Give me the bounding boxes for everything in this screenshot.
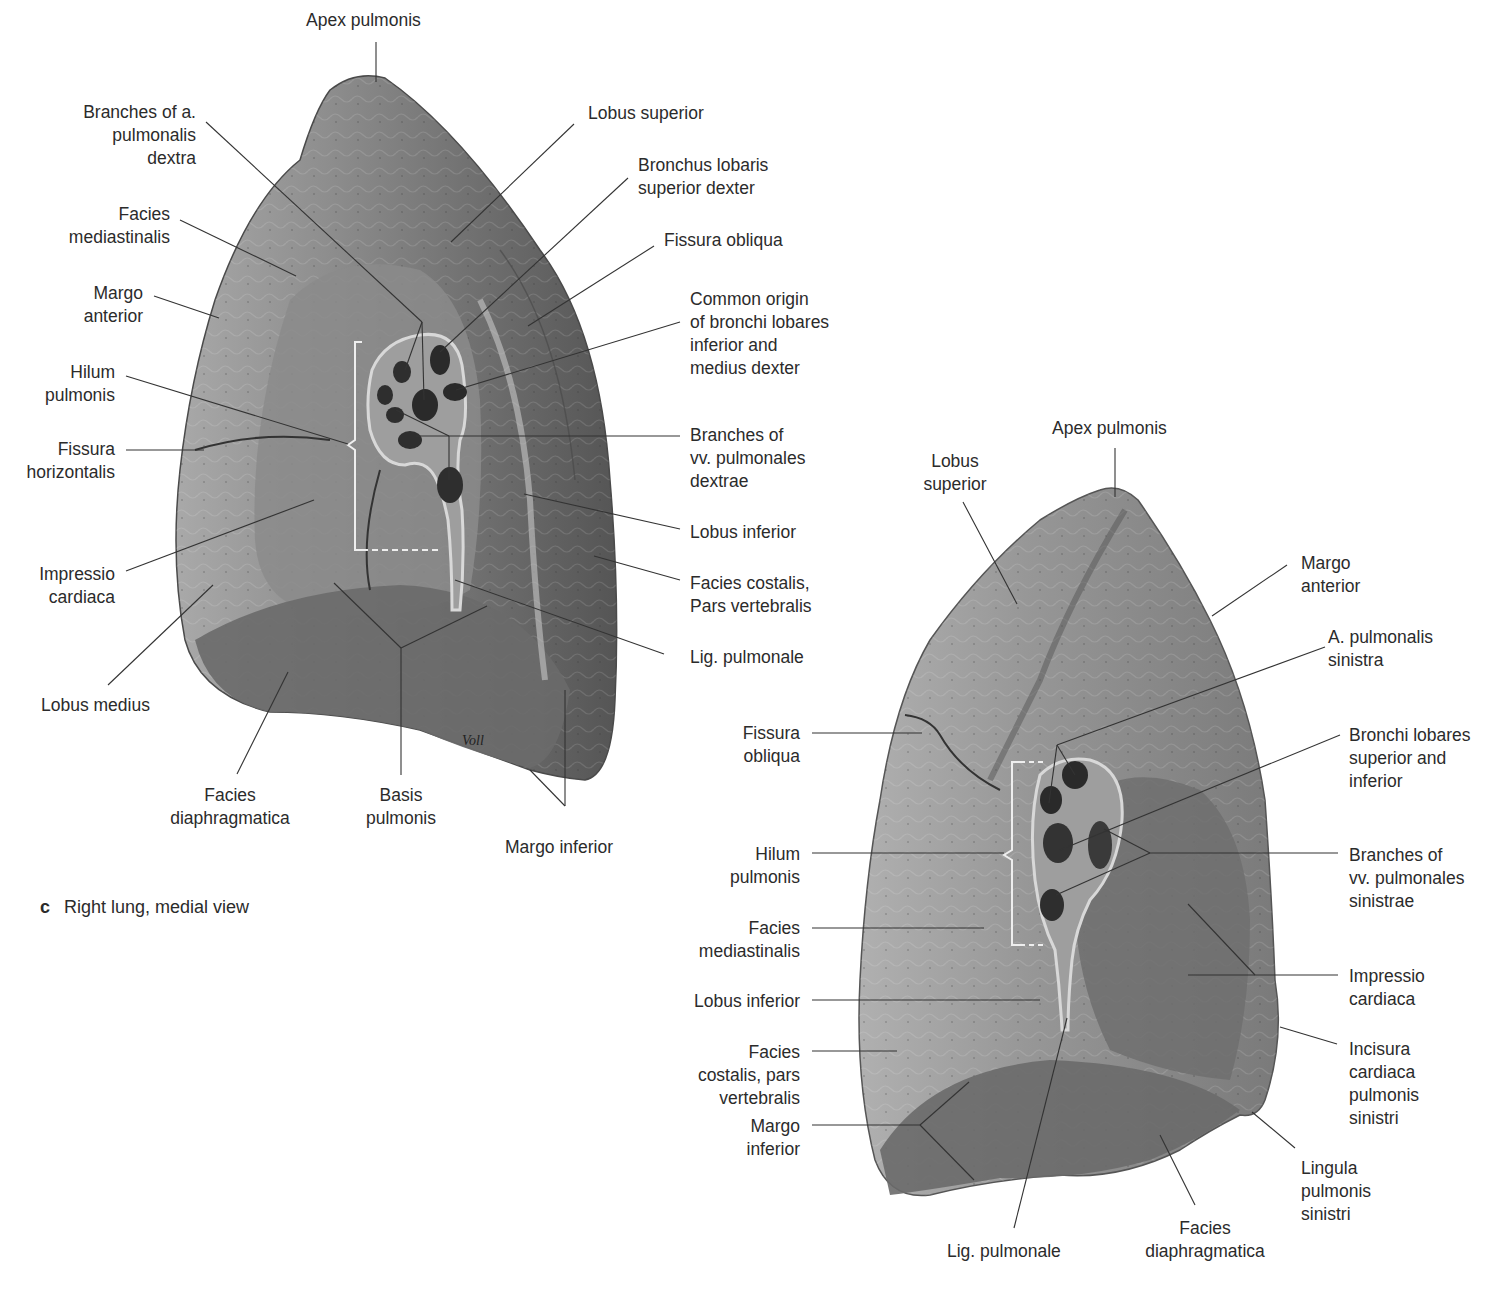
label-line: anterior [1301, 575, 1360, 598]
label-line: Facies [698, 1041, 800, 1064]
label-line: pulmonis [1301, 1180, 1371, 1203]
label-right-facies-costalis: Facies costalis, Pars vertebralis [690, 572, 812, 618]
label-line: vv. pulmonales [1349, 867, 1464, 890]
label-line: superior dexter [638, 177, 768, 200]
label-right-facies-diaphragmatica: Facies diaphragmatica [160, 784, 300, 830]
label-right-lobus-inferior: Lobus inferior [690, 521, 796, 544]
label-line: Lingula [1301, 1157, 1371, 1180]
label-line: Common origin [690, 288, 829, 311]
label-line: pulmonis [355, 807, 447, 830]
label-left-facies-diaphragmatica: Facies diaphragmatica [1135, 1217, 1275, 1263]
label-line: inferior and [690, 334, 829, 357]
label-left-lingula-pulmonis: Lingula pulmonis sinistri [1301, 1157, 1371, 1226]
label-left-lobus-superior: Lobus superior [915, 450, 995, 496]
label-line: superior and [1349, 747, 1471, 770]
label-line: Lobus inferior [690, 521, 796, 544]
label-line: medius dexter [690, 357, 829, 380]
label-line: Margo [84, 282, 143, 305]
label-line: horizontalis [26, 461, 115, 484]
label-right-branches-vv-pulmonales: Branches of vv. pulmonales dextrae [690, 424, 805, 493]
left-lung-drawing [859, 488, 1278, 1196]
label-line: Lobus [915, 450, 995, 473]
label-line: Hilum [730, 843, 800, 866]
label-left-bronchi-lobares: Bronchi lobares superior and inferior [1349, 724, 1471, 793]
label-line: Apex pulmonis [306, 9, 421, 32]
label-line: superior [915, 473, 995, 496]
label-right-facies-mediastinalis: Facies mediastinalis [69, 203, 170, 249]
label-line: Fissura [26, 438, 115, 461]
label-line: mediastinalis [699, 940, 800, 963]
label-right-branches-a-pulmonalis-dextra: Branches of a. pulmonalis dextra [83, 101, 196, 170]
label-line: Facies costalis, [690, 572, 812, 595]
label-line: sinistrae [1349, 890, 1464, 913]
label-line: pulmonis [730, 866, 800, 889]
label-line: Bronchus lobaris [638, 154, 768, 177]
label-line: Hilum [45, 361, 115, 384]
label-line: vertebralis [698, 1087, 800, 1110]
label-line: pulmonis [1349, 1084, 1419, 1107]
figure-caption: cRight lung, medial view [40, 897, 249, 918]
label-line: Fissura [743, 722, 800, 745]
label-line: Fissura obliqua [664, 229, 783, 252]
artist-signature: Voll [462, 733, 484, 748]
label-line: cardiaca [39, 586, 115, 609]
label-line: Lobus inferior [694, 990, 800, 1013]
label-line: mediastinalis [69, 226, 170, 249]
label-line: pulmonis [45, 384, 115, 407]
label-line: Apex pulmonis [1052, 417, 1167, 440]
label-line: vv. pulmonales [690, 447, 805, 470]
label-right-lobus-superior: Lobus superior [588, 102, 704, 125]
label-right-lig-pulmonale: Lig. pulmonale [690, 646, 804, 669]
caption-letter: c [40, 897, 50, 917]
label-line: Impressio [39, 563, 115, 586]
label-right-hilum-pulmonis: Hilum pulmonis [45, 361, 115, 407]
label-left-fissura-obliqua: Fissura obliqua [743, 722, 800, 768]
right-lung-drawing: Voll [176, 76, 617, 780]
label-left-hilum-pulmonis: Hilum pulmonis [730, 843, 800, 889]
label-line: sinistra [1328, 649, 1433, 672]
label-line: diaphragmatica [160, 807, 300, 830]
label-left-incisura-cardiaca: Incisura cardiaca pulmonis sinistri [1349, 1038, 1419, 1130]
label-line: sinistri [1349, 1107, 1419, 1130]
label-line: cardiaca [1349, 988, 1425, 1011]
label-right-fissura-obliqua: Fissura obliqua [664, 229, 783, 252]
label-right-lobus-medius: Lobus medius [41, 694, 150, 717]
label-line: Bronchi lobares [1349, 724, 1471, 747]
label-line: Pars vertebralis [690, 595, 812, 618]
label-left-apex-pulmonis: Apex pulmonis [1052, 417, 1167, 440]
label-left-lig-pulmonale: Lig. pulmonale [947, 1240, 1061, 1263]
label-line: cardiaca [1349, 1061, 1419, 1084]
label-line: Facies [160, 784, 300, 807]
label-left-lobus-inferior: Lobus inferior [694, 990, 800, 1013]
label-line: sinistri [1301, 1203, 1371, 1226]
label-left-margo-inferior: Margo inferior [747, 1115, 801, 1161]
label-line: Margo [1301, 552, 1360, 575]
label-right-margo-inferior: Margo inferior [505, 836, 613, 859]
label-left-margo-anterior: Margo anterior [1301, 552, 1360, 598]
label-line: Facies [699, 917, 800, 940]
label-line: Lobus medius [41, 694, 150, 717]
label-line: inferior [1349, 770, 1471, 793]
label-right-fissura-horizontalis: Fissura horizontalis [26, 438, 115, 484]
label-line: Margo inferior [505, 836, 613, 859]
label-line: Branches of a. [83, 101, 196, 124]
label-right-basis-pulmonis: Basis pulmonis [355, 784, 447, 830]
label-line: pulmonalis [83, 124, 196, 147]
label-line: diaphragmatica [1135, 1240, 1275, 1263]
label-line: Basis [355, 784, 447, 807]
label-line: Facies [1135, 1217, 1275, 1240]
label-left-a-pulmonalis-sinistra: A. pulmonalis sinistra [1328, 626, 1433, 672]
label-line: Margo [747, 1115, 801, 1138]
label-line: dextra [83, 147, 196, 170]
label-line: Lig. pulmonale [947, 1240, 1061, 1263]
label-line: Facies [69, 203, 170, 226]
label-right-margo-anterior: Margo anterior [84, 282, 143, 328]
label-line: costalis, pars [698, 1064, 800, 1087]
label-line: inferior [747, 1138, 801, 1161]
label-left-branches-vv-pulmonales: Branches of vv. pulmonales sinistrae [1349, 844, 1464, 913]
label-left-impressio-cardiaca: Impressio cardiaca [1349, 965, 1425, 1011]
label-line: Impressio [1349, 965, 1425, 988]
label-right-impressio-cardiaca: Impressio cardiaca [39, 563, 115, 609]
label-line: Branches of [690, 424, 805, 447]
label-line: anterior [84, 305, 143, 328]
